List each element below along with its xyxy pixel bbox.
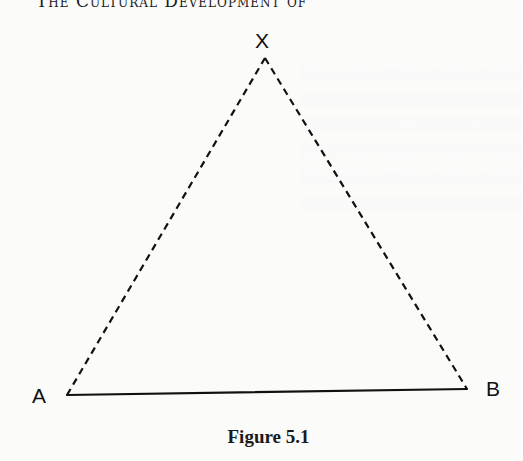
edge-x-b (265, 58, 467, 389)
triangle-diagram (0, 0, 523, 461)
figure-caption: Figure 5.1 (0, 426, 523, 448)
edge-a-x (67, 58, 265, 395)
vertex-label-a: A (32, 385, 46, 406)
vertex-label-x: X (255, 30, 269, 51)
vertex-label-b: B (486, 378, 500, 399)
edge-a-b (67, 389, 467, 395)
